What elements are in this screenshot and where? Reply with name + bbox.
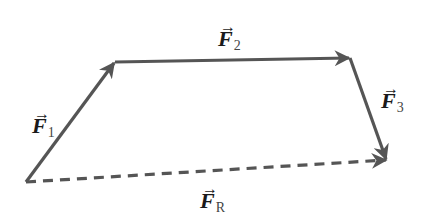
vector-arrow-icon: → — [383, 81, 399, 97]
label-fr-subscript: R — [216, 200, 225, 215]
label-f1: → F1 — [32, 115, 55, 137]
label-f3: → F3 — [381, 90, 404, 112]
vector-f2 — [115, 58, 349, 62]
label-f2: → F2 — [218, 28, 241, 50]
label-f1-subscript: 1 — [48, 125, 55, 140]
vector-arrow-icon: → — [202, 181, 218, 197]
label-f3-subscript: 3 — [397, 100, 404, 115]
label-f2-subscript: 2 — [234, 38, 241, 53]
label-fr: → FR — [200, 190, 225, 212]
vector-arrow-icon: → — [220, 19, 236, 35]
vector-fr-resultant — [26, 160, 386, 182]
vector-arrow-icon: → — [34, 106, 50, 122]
